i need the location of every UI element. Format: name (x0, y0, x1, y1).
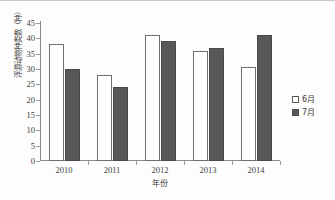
y-axis-tick-label: 40 (27, 33, 36, 43)
chart-legend: 6月7月 (292, 93, 315, 119)
y-axis-tick-label: 15 (27, 110, 36, 120)
x-axis-tick (184, 161, 185, 165)
x-axis-tick (136, 161, 137, 165)
x-axis-tick (280, 161, 281, 165)
y-axis-tick-label: 5 (31, 141, 35, 151)
bar-2010-7月 (65, 69, 80, 161)
plot-area: 051015202530354045 20102011201220132014 (40, 23, 280, 161)
bar-2012-6月 (145, 35, 160, 161)
bar-2014-7月 (257, 35, 272, 161)
x-axis-tick-label: 2014 (248, 165, 265, 175)
bar-2013-6月 (193, 51, 208, 161)
x-axis-tick-label: 2011 (104, 165, 121, 175)
legend-item-label: 6月 (302, 96, 315, 104)
x-axis-tick (232, 161, 233, 165)
hollow-square-icon (292, 96, 299, 103)
bar-2012-7月 (161, 41, 176, 161)
x-axis-title: 年份 (40, 177, 280, 188)
y-axis-tick-label: 20 (27, 95, 36, 105)
y-axis-tick-label: 0 (31, 156, 35, 166)
bar-chart-figure: 浮游动物种类数（种） 051015202530354045 2010201120… (0, 0, 335, 200)
x-axis-tick-label: 2010 (56, 165, 73, 175)
y-axis-tick-label: 35 (27, 49, 36, 59)
y-axis-tick-label: 25 (27, 79, 36, 89)
y-axis-title: 浮游动物种类数（种） (12, 0, 23, 106)
bar-2011-6月 (97, 75, 112, 161)
bar-2014-6月 (241, 67, 256, 161)
bar-2010-6月 (49, 44, 64, 161)
x-axis-tick-label: 2012 (152, 165, 169, 175)
y-axis-tick-label: 30 (27, 64, 36, 74)
y-axis-tick-label: 10 (27, 125, 36, 135)
bar-group: 2013 (184, 23, 232, 161)
legend-item-7月[interactable]: 7月 (292, 106, 315, 119)
x-axis-tick (88, 161, 89, 165)
filled-square-icon (292, 109, 299, 116)
y-axis-tick-label: 45 (27, 18, 36, 28)
x-axis-tick-label: 2013 (200, 165, 217, 175)
y-axis-tick (36, 161, 40, 162)
bar-2013-7月 (209, 48, 224, 161)
bar-group: 2014 (232, 23, 280, 161)
legend-item-6月[interactable]: 6月 (292, 93, 315, 106)
bar-group: 2011 (88, 23, 136, 161)
bar-2011-7月 (113, 87, 128, 161)
bar-group: 2010 (40, 23, 88, 161)
legend-item-label: 7月 (302, 109, 315, 117)
bar-group: 2012 (136, 23, 184, 161)
